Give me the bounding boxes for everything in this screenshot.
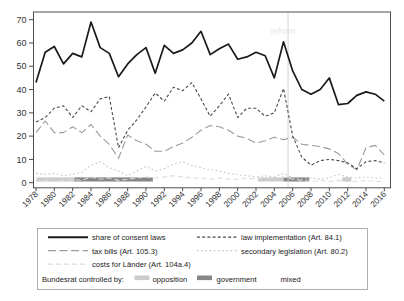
y-axis-tick-label: 40 bbox=[16, 85, 26, 95]
legend-label-government: government bbox=[217, 275, 258, 284]
y-axis-tick-label: 60 bbox=[16, 38, 26, 48]
legend-label-secondary-legislation: secondary legislation (Art. 80.2) bbox=[241, 247, 348, 256]
legend-swatch-opposition bbox=[135, 276, 150, 281]
y-axis-tick-label: 70 bbox=[16, 15, 26, 25]
legend-control-label: Bundesrat controlled by: bbox=[42, 275, 124, 284]
y-axis-tick-label: 50 bbox=[16, 61, 26, 71]
legend-swatch-mixed bbox=[262, 276, 277, 281]
y-axis-tick-label: 20 bbox=[16, 131, 26, 141]
reform-label: reform bbox=[271, 26, 296, 36]
legend-label-tax-bills: tax bills (Art. 105.3) bbox=[92, 247, 158, 256]
consent-laws-figure: reform0102030405060701978198019821984198… bbox=[0, 0, 404, 301]
legend-label-mixed: mixed bbox=[281, 275, 301, 284]
y-axis-tick-label: 0 bbox=[21, 178, 26, 188]
legend-label-costs-for-laender: costs for Länder (Art. 104a.4) bbox=[92, 260, 191, 269]
legend-label-law-implementation: law implementation (Art. 84.1) bbox=[241, 233, 342, 242]
consent-laws-chart: reform0102030405060701978198019821984198… bbox=[0, 0, 404, 301]
legend: share of consent lawslaw implementation … bbox=[38, 229, 368, 290]
legend-swatch-government bbox=[197, 276, 212, 281]
legend-label-opposition: opposition bbox=[153, 275, 188, 284]
legend-label-share-of-consent-laws: share of consent laws bbox=[92, 233, 166, 242]
y-axis-tick-label: 10 bbox=[16, 155, 26, 165]
y-axis-tick-label: 30 bbox=[16, 108, 26, 118]
